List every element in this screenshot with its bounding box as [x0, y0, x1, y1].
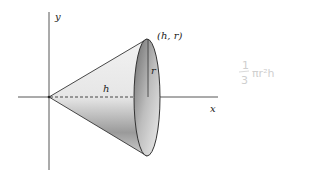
height-label: h	[103, 83, 109, 94]
annotation-numerator: 1	[242, 59, 249, 72]
origin-point	[48, 96, 51, 99]
y-axis-label: y	[54, 11, 61, 22]
cone-base	[134, 39, 160, 156]
cone-diagram: y x h r (h, r) 1 3 πr²h	[0, 0, 319, 174]
annotation-expression: πr²h	[252, 67, 275, 80]
annotation-denominator: 3	[241, 74, 248, 87]
x-axis-label: x	[210, 103, 216, 114]
point-label: (h, r)	[157, 30, 182, 41]
volume-annotation: 1 3 πr²h	[239, 59, 275, 87]
cone-surface	[49, 39, 147, 156]
